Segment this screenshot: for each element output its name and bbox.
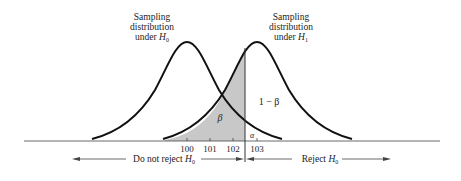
tick-label-102: 102 <box>226 144 240 154</box>
h0-title-line2: distribution <box>130 22 174 32</box>
one-minus-beta-label: 1 − β <box>259 96 280 107</box>
h1-title-line1: Sampling <box>273 12 310 22</box>
h1-title-line3: under H1 <box>274 32 308 43</box>
tick-label-100: 100 <box>180 144 194 154</box>
beta-label: β <box>217 112 223 123</box>
alpha-label: α <box>250 131 255 140</box>
h0-title-line3: under H0 <box>135 32 169 43</box>
right-arrowhead-icon <box>236 157 244 161</box>
tick-label-101: 101 <box>203 144 217 154</box>
do-not-reject-label: Do not reject H0 <box>133 154 195 165</box>
tick-label-103: 103 <box>250 144 264 154</box>
left-arrowhead-icon <box>72 157 80 161</box>
reject-right-arrowhead-icon <box>383 157 391 161</box>
hypothesis-test-diagram: 100 101 102 103 Sampling distribution un… <box>0 0 461 181</box>
h0-title-line1: Sampling <box>134 12 171 22</box>
h1-distribution-curve <box>163 42 352 139</box>
h0-distribution-curve <box>92 42 282 139</box>
h1-title-line2: distribution <box>269 22 313 32</box>
reject-label: Reject H0 <box>302 154 339 165</box>
